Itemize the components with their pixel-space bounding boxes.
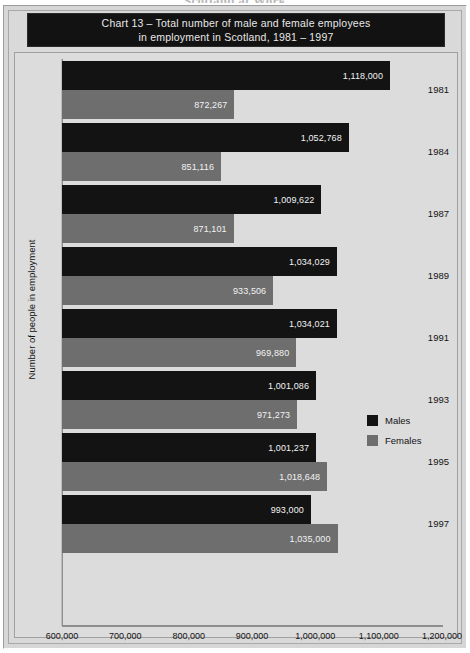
legend-label-males: Males [385, 415, 410, 426]
bar-male: 1,009,622 [62, 185, 321, 214]
year-label: 1991 [409, 332, 449, 343]
bar-female: 871,101 [62, 214, 234, 243]
bar-value-label: 1,034,021 [289, 319, 337, 329]
chart-title-line-2: in employment in Scotland, 1981 – 1997 [139, 30, 334, 44]
bar-female: 971,273 [62, 400, 297, 429]
bar-value-label: 851,116 [181, 162, 221, 172]
x-axis-tick-labels: 600,000700,000800,000900,0001,000,0001,1… [15, 629, 459, 647]
bar-value-label: 872,267 [194, 100, 234, 110]
bar-value-label: 1,118,000 [343, 71, 390, 81]
bar-male: 1,034,021 [62, 309, 337, 338]
bar-value-label: 1,001,237 [268, 443, 316, 453]
bar-female: 1,018,648 [62, 462, 327, 491]
legend-swatch-females-icon [367, 435, 378, 446]
bar-male: 1,052,768 [62, 123, 349, 152]
bar-male: 1,001,237 [62, 433, 316, 462]
chart-title-line-1: Chart 13 – Total number of male and fema… [102, 16, 371, 30]
plot-area: 1,118,000872,2671,052,768851,1161,009,62… [62, 61, 442, 624]
chart-page: Scotland at Work Chart 13 – Total number… [0, 0, 470, 653]
bar-group: 1,034,021969,880 [62, 309, 442, 371]
figure-frame: Chart 13 – Total number of male and fema… [3, 5, 467, 649]
x-axis-line [62, 625, 443, 627]
bar-value-label: 969,880 [256, 348, 296, 358]
bar-female: 851,116 [62, 152, 221, 181]
plot-panel: Number of people in employment 1,118,000… [14, 52, 458, 638]
year-label: 1993 [409, 394, 449, 405]
x-axis-tick-label: 1,200,000 [402, 631, 470, 641]
bar-value-label: 1,034,029 [289, 257, 337, 267]
bar-male: 993,000 [62, 495, 311, 524]
year-label: 1995 [409, 456, 449, 467]
bar-group: 1,118,000872,267 [62, 61, 442, 123]
bar-group: 1,009,622871,101 [62, 185, 442, 247]
legend: Males Females [367, 412, 453, 452]
bar-female: 1,035,000 [62, 524, 338, 553]
legend-item-females: Females [367, 432, 453, 449]
bar-group: 1,034,029933,506 [62, 247, 442, 309]
bar-value-label: 993,000 [271, 505, 311, 515]
bar-value-label: 933,506 [233, 286, 273, 296]
bar-value-label: 1,018,648 [279, 472, 327, 482]
bar-group: 1,052,768851,116 [62, 123, 442, 185]
bar-value-label: 1,001,086 [268, 381, 316, 391]
bar-group: 993,0001,035,000 [62, 495, 442, 557]
bar-value-label: 1,052,768 [301, 133, 349, 143]
year-label: 1981 [409, 84, 449, 95]
bar-male: 1,001,086 [62, 371, 316, 400]
y-axis-title: Number of people in employment [26, 200, 37, 420]
year-label: 1989 [409, 270, 449, 281]
bar-male: 1,034,029 [62, 247, 337, 276]
bar-value-label: 871,101 [193, 224, 233, 234]
chart-title: Chart 13 – Total number of male and fema… [27, 13, 445, 47]
year-label: 1987 [409, 208, 449, 219]
bar-value-label: 971,273 [257, 410, 297, 420]
bar-value-label: 1,009,622 [273, 195, 321, 205]
bar-value-label: 1,035,000 [290, 534, 338, 544]
bar-female: 933,506 [62, 276, 273, 305]
bar-female: 969,880 [62, 338, 296, 367]
bar-male: 1,118,000 [62, 61, 390, 90]
legend-item-males: Males [367, 412, 453, 429]
bar-female: 872,267 [62, 90, 234, 119]
legend-label-females: Females [385, 435, 421, 446]
running-header: Scotland at Work [0, 0, 470, 3]
legend-swatch-males-icon [367, 415, 378, 426]
year-label: 1997 [409, 518, 449, 529]
year-label: 1984 [409, 146, 449, 157]
